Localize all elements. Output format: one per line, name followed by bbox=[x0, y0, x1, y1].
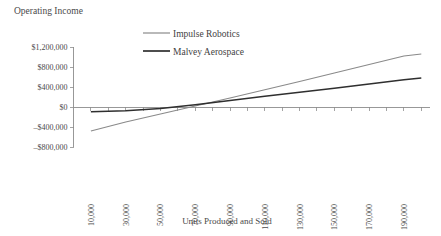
y-tick-label: –$400,000 bbox=[33, 123, 68, 132]
chart-canvas: Operating Income Impulse Robotics Malvey… bbox=[0, 0, 441, 236]
y-axis: $1,200,000$800,000$400,000$0–$400,000–$8… bbox=[32, 43, 74, 152]
y-tick-label: $800,000 bbox=[38, 63, 68, 72]
x-tick-label: 50,000 bbox=[156, 204, 165, 226]
x-tick-label: 170,000 bbox=[365, 204, 374, 230]
x-tick-label: 130,000 bbox=[296, 204, 305, 230]
legend-label-impulse-robotics: Impulse Robotics bbox=[173, 29, 240, 39]
y-tick-label: $0 bbox=[60, 103, 68, 112]
chart-legend: Impulse Robotics Malvey Aerospace bbox=[143, 29, 244, 57]
x-tick-label: 30,000 bbox=[122, 204, 131, 226]
x-tick-label: 190,000 bbox=[400, 204, 409, 230]
y-tick-label: $1,200,000 bbox=[32, 43, 68, 52]
chart-title: Operating Income bbox=[14, 6, 83, 16]
series-line bbox=[91, 54, 421, 131]
y-tick-label: –$800,000 bbox=[33, 143, 68, 152]
x-tick-label: 150,000 bbox=[330, 204, 339, 230]
x-axis: 10,00030,00050,00070,00090,000110,000130… bbox=[74, 107, 431, 230]
x-tick-label: 10,000 bbox=[87, 204, 96, 226]
data-series bbox=[91, 54, 421, 131]
x-axis-title: Units Produced and Sold bbox=[182, 216, 272, 226]
legend-label-malvey-aerospace: Malvey Aerospace bbox=[173, 47, 244, 57]
operating-income-chart: Operating Income Impulse Robotics Malvey… bbox=[0, 0, 441, 236]
y-tick-label: $400,000 bbox=[38, 83, 68, 92]
